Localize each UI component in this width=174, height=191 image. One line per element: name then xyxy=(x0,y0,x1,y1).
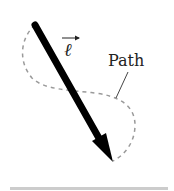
bottom-rule xyxy=(10,187,168,190)
vector-over-arrowhead-icon xyxy=(75,36,80,41)
vector-label: ℓ xyxy=(64,39,72,60)
path-label: Path xyxy=(108,51,144,70)
path-leader-line xyxy=(116,72,128,98)
displacement-diagram: ℓ Path xyxy=(0,0,174,191)
